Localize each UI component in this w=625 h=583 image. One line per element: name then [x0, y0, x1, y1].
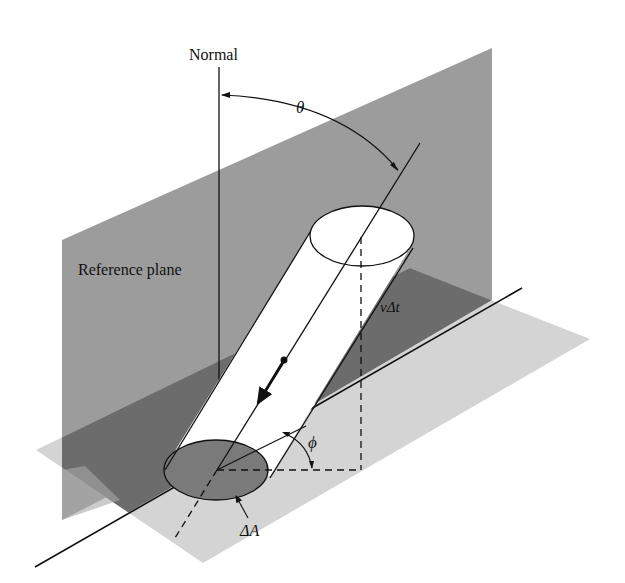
- theta-arrow-start-icon: [221, 92, 230, 98]
- v-delta-t-label: vΔt: [380, 299, 400, 315]
- phi-label: ϕ: [308, 433, 317, 452]
- normal-label: Normal: [189, 46, 238, 63]
- theta-label: θ: [296, 98, 304, 117]
- delta-a-surface: [164, 440, 268, 500]
- reference-plane-label: Reference plane: [78, 261, 181, 279]
- delta-a-label: ΔA: [239, 522, 259, 539]
- flux-diagram: Normal θ Reference plane vΔt ϕ ΔA: [0, 0, 625, 583]
